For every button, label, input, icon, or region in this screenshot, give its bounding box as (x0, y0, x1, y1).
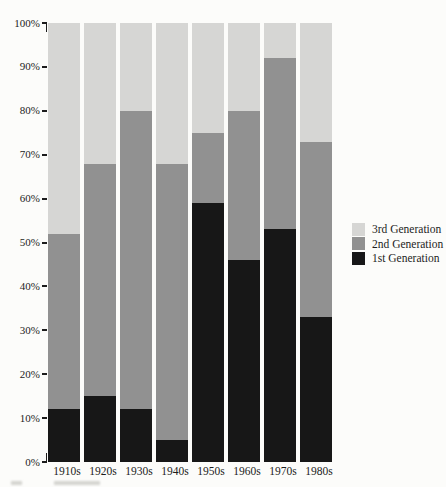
y-tick-label: 70% (0, 149, 40, 160)
x-tick-label: 1940s (155, 465, 195, 477)
legend-item-1st-generation: 1st Generation (352, 251, 443, 266)
scan-artifact (11, 481, 22, 485)
bar-segment-2nd-generation (48, 234, 80, 410)
bar-segment-1st-generation (120, 409, 152, 462)
y-axis-endcap (46, 23, 48, 32)
x-tick-label: 1960s (227, 465, 267, 477)
x-tick-label: 1970s (263, 465, 303, 477)
bar-segment-2nd-generation (264, 58, 296, 229)
bar-segment-2nd-generation (192, 133, 224, 203)
bar-1940s (156, 23, 188, 462)
bar-1930s (120, 23, 152, 462)
bar-1910s (48, 23, 80, 462)
bar-segment-3rd-generation (192, 23, 224, 133)
bar-1960s (228, 23, 260, 462)
y-tick-label: 0% (0, 457, 40, 468)
legend-label: 3rd Generation (372, 223, 441, 235)
legend-label: 2nd Generation (372, 238, 443, 250)
legend-swatch (352, 223, 365, 236)
bar-segment-1st-generation (84, 396, 116, 462)
bar-1980s (300, 23, 332, 462)
bar-segment-2nd-generation (120, 111, 152, 410)
bar-segment-3rd-generation (264, 23, 296, 58)
bar-1920s (84, 23, 116, 462)
y-tick-label: 10% (0, 413, 40, 424)
bar-segment-2nd-generation (300, 142, 332, 318)
y-tick-mark (42, 285, 47, 287)
bar-segment-3rd-generation (48, 23, 80, 234)
legend-item-2nd-generation: 2nd Generation (352, 237, 443, 252)
x-tick-label: 1910s (47, 465, 87, 477)
bar-segment-3rd-generation (228, 23, 260, 111)
bar-1950s (192, 23, 224, 462)
bar-segment-1st-generation (264, 229, 296, 462)
bar-segment-1st-generation (300, 317, 332, 462)
y-tick-label: 80% (0, 105, 40, 116)
legend-swatch (352, 252, 365, 265)
bar-segment-1st-generation (192, 203, 224, 462)
x-tick-label: 1950s (191, 465, 231, 477)
y-tick-label: 90% (0, 61, 40, 72)
x-tick-label: 1980s (299, 465, 339, 477)
y-tick-mark (42, 373, 47, 375)
bar-segment-3rd-generation (84, 23, 116, 163)
legend: 3rd Generation2nd Generation1st Generati… (352, 222, 443, 266)
bar-1970s (264, 23, 296, 462)
y-tick-label: 50% (0, 237, 40, 248)
x-tick-label: 1920s (83, 465, 123, 477)
legend-swatch (352, 237, 365, 250)
y-tick-mark (42, 154, 47, 156)
bar-segment-1st-generation (156, 440, 188, 462)
y-tick-mark (42, 329, 47, 331)
bar-segment-3rd-generation (300, 23, 332, 142)
y-tick-mark (42, 66, 47, 68)
legend-label: 1st Generation (372, 252, 439, 264)
y-tick-mark (42, 110, 47, 112)
bar-segment-2nd-generation (84, 164, 116, 397)
stacked-bar-chart: 100%90%80%70%60%50%40%30%20%10%0% 1910s1… (0, 0, 446, 487)
bar-segment-3rd-generation (120, 23, 152, 111)
y-tick-label: 60% (0, 193, 40, 204)
bar-segment-2nd-generation (228, 111, 260, 260)
scan-artifact (54, 481, 100, 485)
bar-segment-1st-generation (48, 409, 80, 462)
y-tick-label: 40% (0, 281, 40, 292)
y-tick-label: 20% (0, 369, 40, 380)
y-tick-mark (42, 198, 47, 200)
legend-item-3rd-generation: 3rd Generation (352, 222, 443, 237)
bar-segment-2nd-generation (156, 164, 188, 441)
bar-segment-1st-generation (228, 260, 260, 462)
bar-segment-3rd-generation (156, 23, 188, 163)
y-tick-mark (42, 242, 47, 244)
y-tick-label: 100% (0, 18, 40, 29)
y-axis-endcap (46, 453, 48, 462)
y-tick-label: 30% (0, 325, 40, 336)
x-tick-label: 1930s (119, 465, 159, 477)
y-tick-mark (42, 417, 47, 419)
